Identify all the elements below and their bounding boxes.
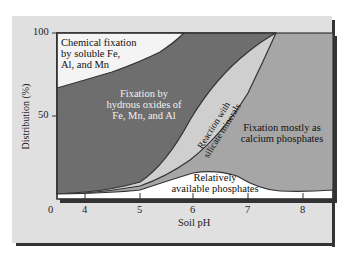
available-phosphates-label: Relativelyavailable phosphates xyxy=(170,172,260,194)
x-tick-label: 6 xyxy=(190,204,195,215)
x-tick-label: 7 xyxy=(245,204,250,215)
x-tick-label: 5 xyxy=(137,204,142,215)
hydrous-oxides-label: Fixation byhydrous oxides ofFe, Mn, and … xyxy=(96,88,192,121)
y-tick-label: 100 xyxy=(33,26,49,37)
calcium-phosphates-label: Fixation mostly ascalcium phosphates xyxy=(232,122,332,144)
chemical-fixation-label: Chemical fixationby soluble Fe,Al, and M… xyxy=(61,37,137,70)
x-tick-label: 0 xyxy=(48,204,53,215)
x-tick-label: 4 xyxy=(82,204,87,215)
y-axis-label: Distribution (%) xyxy=(20,72,31,162)
x-axis-label: Soil pH xyxy=(178,217,210,228)
y-tick-label: 50 xyxy=(38,109,49,120)
x-tick-label: 8 xyxy=(300,204,305,215)
